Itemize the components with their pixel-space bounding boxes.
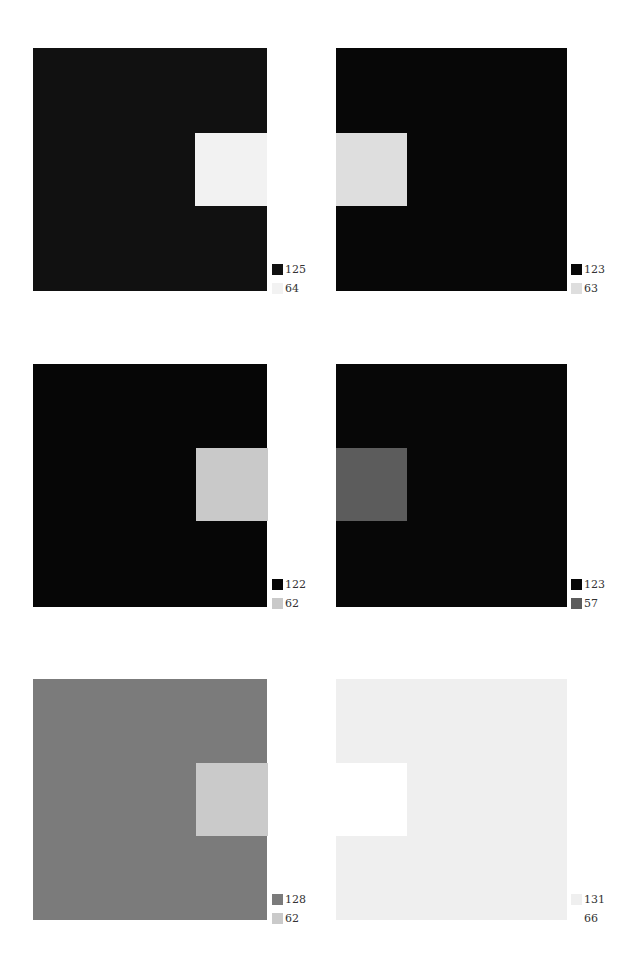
inner-square <box>196 448 268 521</box>
panel-middle-left <box>33 364 267 607</box>
inner-square <box>195 133 267 206</box>
legend-value: 131 <box>584 893 605 907</box>
legend-value: 66 <box>584 912 598 926</box>
color-swatch <box>571 579 582 590</box>
panel-middle-right <box>336 364 567 607</box>
inner-square <box>336 133 407 206</box>
color-swatch <box>272 913 283 924</box>
panel-top-left <box>33 48 267 291</box>
inner-square <box>336 763 407 836</box>
legend-value: 62 <box>285 597 299 611</box>
legend-value: 123 <box>584 263 605 277</box>
color-swatch <box>571 283 582 294</box>
legend-middle-right: 123 57 <box>571 579 621 619</box>
legend-value: 128 <box>285 893 306 907</box>
color-swatch <box>571 894 582 905</box>
legend-value: 64 <box>285 282 299 296</box>
legend-value: 125 <box>285 263 306 277</box>
panel-bottom-right <box>336 679 567 920</box>
inner-square <box>336 448 407 521</box>
legend-value: 122 <box>285 578 306 592</box>
legend-top-right: 123 63 <box>571 264 621 304</box>
legend-value: 62 <box>285 912 299 926</box>
legend-bottom-right: 131 66 <box>571 894 621 934</box>
legend-bottom-left: 128 62 <box>272 894 322 934</box>
color-swatch <box>571 913 582 924</box>
legend-top-left: 125 64 <box>272 264 322 304</box>
color-swatch <box>272 264 283 275</box>
inner-square <box>196 763 268 836</box>
panel-bottom-left <box>33 679 267 920</box>
color-swatch <box>272 598 283 609</box>
panel-top-right <box>336 48 567 291</box>
legend-value: 123 <box>584 578 605 592</box>
color-swatch <box>272 283 283 294</box>
color-swatch <box>272 894 283 905</box>
color-swatch <box>272 579 283 590</box>
legend-value: 63 <box>584 282 598 296</box>
color-swatch <box>571 598 582 609</box>
legend-middle-left: 122 62 <box>272 579 322 619</box>
legend-value: 57 <box>584 597 598 611</box>
color-swatch <box>571 264 582 275</box>
